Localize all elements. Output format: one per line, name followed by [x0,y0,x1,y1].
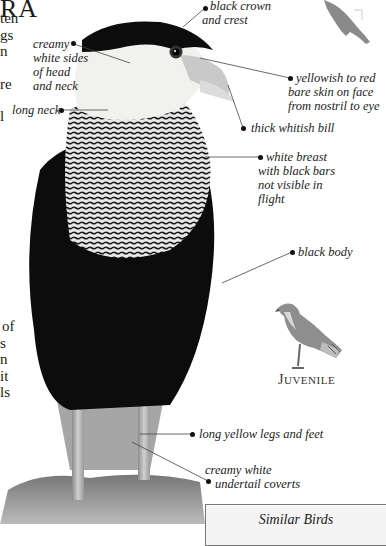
label-line: of head [33,65,88,79]
similar-birds-box: Similar Birds [205,504,386,546]
juvenile-label: JUVENILE [278,372,335,388]
juvenile-bird-illustration [270,298,350,378]
label-dot [203,6,208,11]
label-line: and crest [202,13,271,27]
label-line: and neck [33,79,88,93]
label-bill: thick whitish bill [251,121,334,135]
body-text-lower: of s n it ls [0,318,15,401]
leader-lines [61,8,292,481]
similar-birds-title: Similar Birds [206,512,386,528]
text-line: re [0,76,18,93]
label-line: creamy [33,37,88,51]
label-line: black crown [210,0,271,13]
label-body: black body [298,245,353,259]
perch [0,475,205,524]
bird-silhouette-icon [320,0,372,46]
text-line: n [0,351,15,368]
label-line: not visible in [258,178,335,192]
text-line: gs [0,27,18,44]
text-line [0,60,18,76]
label-line: bare skin on face [288,85,380,99]
text-line: of [0,318,15,335]
label-line: with black bars [258,164,335,178]
label-dot [241,126,246,131]
juvenile-label-rest: UVENILE [284,374,335,386]
label-black-crown: black crown and crest [210,0,271,27]
label-breast: white breast with black bars not visible… [266,150,335,206]
label-line: white sides [33,51,88,65]
label-line: creamy white [205,463,300,477]
label-dot [258,155,263,160]
text-line: it [0,368,15,385]
label-bare-skin: yellowish to red bare skin on face from … [296,71,380,113]
label-creamy-sides: creamy white sides of head and neck [33,37,88,93]
label-undertail: creamy white undertail coverts [205,463,300,491]
text-line: n [0,43,18,60]
label-line: white breast [266,150,335,164]
label-dot [190,432,195,437]
text-line: ten [0,10,18,27]
label-long-neck: long neck [12,103,60,117]
text-line: s [0,335,15,352]
label-legs: long yellow legs and feet [199,427,323,441]
label-dot [288,76,293,81]
label-dot [290,250,295,255]
label-line: from nostril to eye [288,99,380,113]
label-line: yellowish to red [296,71,380,85]
label-line: flight [258,192,335,206]
label-line: undertail coverts [215,477,300,491]
text-line: ls [0,384,15,401]
